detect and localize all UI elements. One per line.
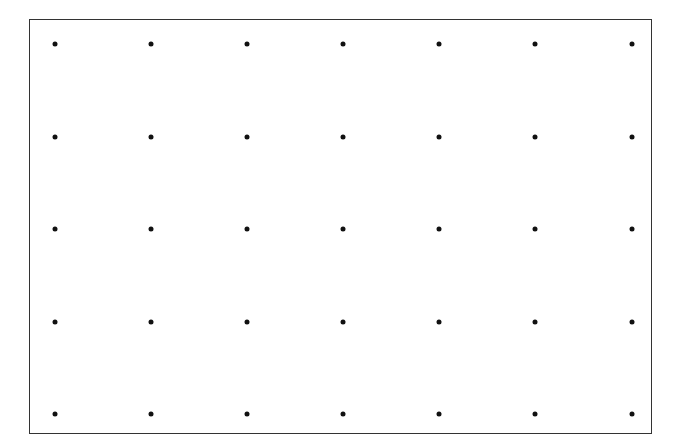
grid-dot [149, 412, 154, 417]
grid-dot [437, 42, 442, 47]
grid-dot [630, 412, 635, 417]
grid-dot [437, 135, 442, 140]
grid-dot [630, 135, 635, 140]
grid-dot [341, 320, 346, 325]
grid-dot [630, 320, 635, 325]
grid-dot [53, 42, 58, 47]
grid-dot [341, 42, 346, 47]
grid-dot [341, 227, 346, 232]
grid-dot [245, 412, 250, 417]
grid-dot [149, 320, 154, 325]
grid-dot [149, 42, 154, 47]
grid-dot [533, 135, 538, 140]
grid-dot [245, 135, 250, 140]
grid-dot [53, 412, 58, 417]
grid-dot [437, 412, 442, 417]
grid-dot [53, 320, 58, 325]
grid-dot [53, 227, 58, 232]
grid-dot [533, 42, 538, 47]
grid-dot [245, 320, 250, 325]
grid-dot [149, 227, 154, 232]
grid-dot [53, 135, 58, 140]
grid-dot [437, 227, 442, 232]
grid-dot [533, 320, 538, 325]
grid-dot [533, 412, 538, 417]
grid-dot [630, 42, 635, 47]
grid-dot [245, 42, 250, 47]
grid-dot [341, 135, 346, 140]
grid-dot [245, 227, 250, 232]
grid-dot [533, 227, 538, 232]
grid-dot [437, 320, 442, 325]
grid-dot [630, 227, 635, 232]
grid-dot [149, 135, 154, 140]
grid-dot [341, 412, 346, 417]
